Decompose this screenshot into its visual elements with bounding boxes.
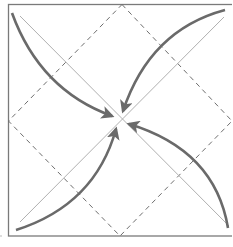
arrow-bottom-left	[16, 129, 116, 230]
arrow-top-left	[12, 13, 112, 116]
fold-diagram	[0, 0, 232, 247]
paper-square	[9, 5, 233, 237]
diagonal-tr-bl	[20, 17, 224, 222]
fold-diamond	[9, 5, 233, 237]
diagram-canvas	[0, 0, 232, 247]
arrow-top-right	[123, 10, 225, 111]
diagonal-tl-br	[20, 16, 229, 226]
